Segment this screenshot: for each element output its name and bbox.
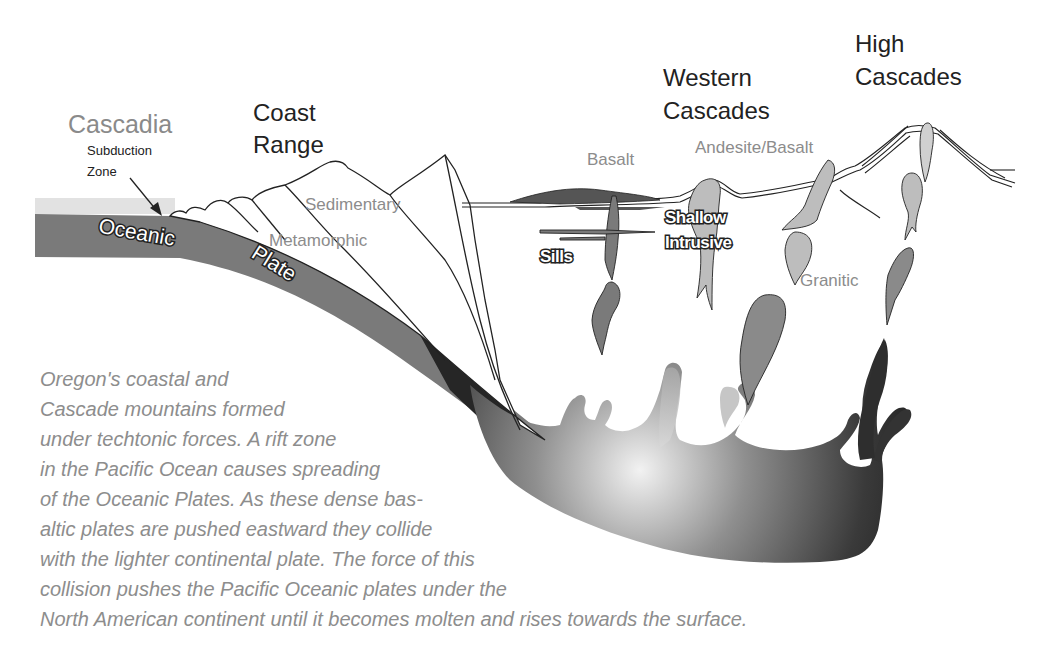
high-cascades-pipe [920, 123, 933, 182]
basalt-flow [510, 189, 660, 204]
caption-line: under techtonic forces. A rift zone [40, 424, 747, 454]
caption-line: with the lighter continental plate. The … [40, 544, 747, 574]
high-cascades-title-2: Cascades [855, 63, 962, 90]
intrusive-label: Intrusive [665, 233, 731, 252]
caption-line: Oregon's coastal and [40, 364, 747, 394]
granitic-pluton-2 [902, 173, 923, 240]
granitic-label: Granitic [800, 271, 859, 290]
cascadia-title: Cascadia [68, 110, 172, 138]
metamorphic-label: Metamorphic [269, 231, 368, 250]
basalt-label: Basalt [587, 150, 635, 169]
western-cascades-title-1: Western [663, 64, 752, 91]
caption-line: collision pushes the Pacific Oceanic pla… [40, 574, 747, 604]
sedimentary-label: Sedimentary [305, 195, 401, 214]
andesite-basalt-label: Andesite/Basalt [695, 138, 813, 157]
subduction-zone-label-1: Subduction [87, 143, 152, 158]
caption-line: altic plates are pushed eastward they co… [40, 514, 747, 544]
sills-label: Sills [540, 247, 573, 266]
coast-range-title-2: Range [253, 131, 324, 158]
coast-range-title-1: Coast [253, 99, 316, 126]
caption-paragraph: Oregon's coastal and Cascade mountains f… [40, 364, 747, 634]
caption-line: Cascade mountains formed [40, 394, 747, 424]
high-cascades-title-1: High [855, 30, 904, 57]
basalt-lower [575, 207, 665, 210]
caption-line: of the Oceanic Plates. As these dense ba… [40, 484, 747, 514]
caption-line: in the Pacific Ocean causes spreading [40, 454, 747, 484]
caption-line: North American continent until it become… [40, 604, 747, 634]
subduction-zone-label-2: Zone [87, 164, 117, 179]
granitic-pluton-3 [886, 248, 914, 325]
andesite-dike [782, 160, 835, 230]
shallow-label: Shallow [665, 208, 727, 227]
western-cascades-title-2: Cascades [663, 97, 770, 124]
sill-pluton [592, 282, 620, 355]
